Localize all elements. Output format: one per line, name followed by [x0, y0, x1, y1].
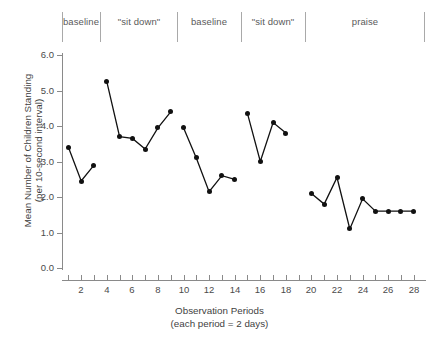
x-axis-tick	[363, 275, 364, 280]
data-point	[181, 125, 186, 130]
data-point	[130, 136, 135, 141]
x-axis-tick	[286, 275, 287, 280]
phase-divider	[424, 12, 425, 42]
x-axis-line	[62, 280, 426, 281]
x-axis-tick-label: 6	[120, 284, 144, 295]
phase-divider	[100, 12, 101, 42]
data-point	[386, 209, 391, 214]
data-point	[360, 196, 365, 201]
y-axis-tick	[57, 55, 62, 56]
y-axis-tick	[57, 268, 62, 269]
x-axis-tick	[222, 275, 223, 280]
x-axis-tick	[196, 275, 197, 280]
x-axis-tick-label: 12	[197, 284, 221, 295]
x-axis-tick-label: 26	[376, 284, 400, 295]
x-axis-tick	[299, 275, 300, 280]
x-axis-tick	[107, 275, 108, 280]
data-point	[219, 173, 224, 178]
x-axis-tick	[247, 275, 248, 280]
phase-divider	[177, 12, 178, 42]
x-axis-tick-label: 10	[172, 284, 196, 295]
x-axis-tick-label: 2	[69, 284, 93, 295]
data-point	[194, 155, 199, 160]
data-point	[168, 109, 173, 114]
data-point	[104, 79, 109, 84]
y-axis-label: Mean Number of Children Standing (per 10…	[22, 39, 44, 262]
data-point	[373, 209, 378, 214]
data-point	[347, 226, 352, 231]
data-point	[66, 145, 71, 150]
data-point	[322, 202, 327, 207]
y-axis-label-line1: Mean Number of Children Standing	[22, 74, 33, 228]
x-axis-tick	[414, 275, 415, 280]
x-axis-tick-label: 14	[223, 284, 247, 295]
y-axis-tick	[57, 162, 62, 163]
x-axis-tick	[401, 275, 402, 280]
data-point	[232, 177, 237, 182]
x-axis-tick	[311, 275, 312, 280]
x-axis-tick	[145, 275, 146, 280]
data-point	[91, 163, 96, 168]
data-point	[335, 175, 340, 180]
x-axis-tick	[81, 275, 82, 280]
phase-label: praise	[320, 16, 410, 27]
x-axis-tick-label: 28	[402, 284, 426, 295]
x-axis-label: Observation Periods (each period = 2 day…	[0, 304, 439, 330]
data-point	[271, 120, 276, 125]
data-point	[309, 191, 314, 196]
series-line	[311, 178, 413, 229]
y-axis-label-line2: (per 10-second interval)	[33, 39, 44, 262]
data-point	[207, 189, 212, 194]
data-point	[398, 209, 403, 214]
y-axis-tick	[57, 126, 62, 127]
data-point	[79, 179, 84, 184]
x-axis-tick	[324, 275, 325, 280]
x-axis-tick	[158, 275, 159, 280]
x-axis-tick	[260, 275, 261, 280]
series-line	[184, 128, 235, 192]
y-axis-tick	[57, 91, 62, 92]
data-point	[155, 125, 160, 130]
series-line	[248, 114, 286, 162]
x-axis-tick	[120, 275, 121, 280]
x-axis-tick	[209, 275, 210, 280]
y-axis-tick	[57, 233, 62, 234]
x-axis-tick	[235, 275, 236, 280]
series-line	[68, 147, 94, 181]
x-axis-tick-label: 8	[146, 284, 170, 295]
y-axis-line	[62, 53, 63, 270]
x-axis-tick	[388, 275, 389, 280]
x-axis-tick	[132, 275, 133, 280]
y-axis-tick-label: 0.0	[22, 262, 54, 273]
x-axis-tick	[171, 275, 172, 280]
data-point	[143, 147, 148, 152]
x-axis-tick-label: 16	[248, 284, 272, 295]
data-point	[245, 111, 250, 116]
x-axis-tick-label: 18	[274, 284, 298, 295]
data-point	[117, 134, 122, 139]
x-axis-tick	[184, 275, 185, 280]
x-axis-tick	[273, 275, 274, 280]
data-point	[283, 131, 288, 136]
data-point	[258, 159, 263, 164]
x-axis-tick	[375, 275, 376, 280]
x-axis-tick-label: 22	[325, 284, 349, 295]
series-line	[107, 82, 171, 150]
x-axis-label-line2: (each period = 2 days)	[0, 317, 439, 330]
x-axis-tick-label: 24	[351, 284, 375, 295]
phase-divider	[62, 12, 63, 42]
phase-divider	[305, 12, 306, 42]
phase-divider	[241, 12, 242, 42]
chart-figure: baseline"sit down"baseline"sit down"prai…	[0, 0, 439, 350]
x-axis-tick-label: 4	[95, 284, 119, 295]
x-axis-tick	[68, 275, 69, 280]
y-axis-tick	[57, 197, 62, 198]
data-point	[411, 209, 416, 214]
x-axis-tick-label: 20	[299, 284, 323, 295]
x-axis-tick	[94, 275, 95, 280]
x-axis-tick	[350, 275, 351, 280]
x-axis-tick	[337, 275, 338, 280]
x-axis-label-line1: Observation Periods	[0, 304, 439, 317]
